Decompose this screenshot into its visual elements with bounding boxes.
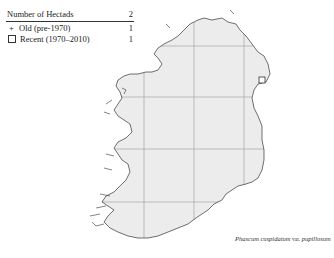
- map-caption: Phascum cuspidatum var. pupillosum: [235, 235, 331, 242]
- caption-species: Phascum cuspidatum: [235, 235, 290, 242]
- land-fill: [102, 18, 270, 238]
- caption-infraspecific: pupillosum: [302, 235, 331, 242]
- ireland-map: [0, 0, 334, 258]
- record-recent-marker: [259, 77, 265, 83]
- caption-rank: var.: [292, 236, 300, 242]
